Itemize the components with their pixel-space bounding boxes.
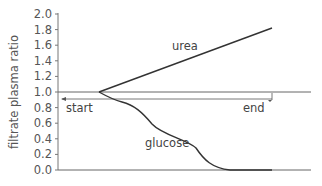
tick-label: 0.0 <box>34 163 52 177</box>
tick-label: 0.4 <box>34 132 52 146</box>
urea-line <box>99 28 272 92</box>
y-axis-label: filtrate plasma ratio <box>7 35 21 149</box>
tick-label: 0.8 <box>34 101 52 115</box>
chart: filtrate plasma ratio 0.0 0.2 0.4 0.6 0.… <box>0 0 322 186</box>
glucose-label: glucose <box>145 136 189 150</box>
tick-label: 1.4 <box>34 54 52 68</box>
y-tick-labels: 0.0 0.2 0.4 0.6 0.8 1.0 1.2 1.4 1.6 1.8 … <box>34 7 52 177</box>
urea-label: urea <box>172 39 198 53</box>
tick-label: 2.0 <box>34 7 52 21</box>
tick-label: 1.8 <box>34 23 52 37</box>
start-label: start <box>66 101 93 115</box>
tick-label: 0.2 <box>34 147 52 161</box>
tick-label: 1.2 <box>34 69 52 83</box>
tick-label: 0.6 <box>34 116 52 130</box>
end-label: end <box>243 101 265 115</box>
tick-label: 1.6 <box>34 38 52 52</box>
tick-label: 1.0 <box>34 85 52 99</box>
